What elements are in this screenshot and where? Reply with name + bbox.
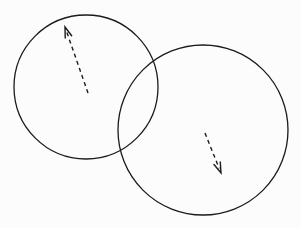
diagram-canvas [0, 0, 301, 228]
diagram-svg [0, 0, 301, 228]
diagram-background [0, 0, 301, 228]
